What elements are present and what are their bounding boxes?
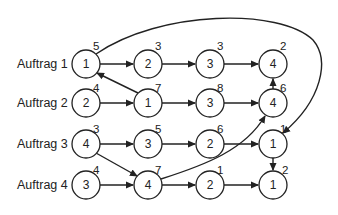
- machine-number: 2: [207, 178, 214, 192]
- node-auftrag-1-op-3: 3 3: [196, 40, 224, 78]
- job-shop-diagram: Auftrag 1 Auftrag 2 Auftrag 3 Auftrag 4 …: [0, 0, 338, 215]
- conjunctive-edges: [100, 64, 258, 185]
- duration: 1: [280, 123, 286, 135]
- duration: 2: [280, 40, 286, 52]
- machine-number: 3: [207, 96, 214, 110]
- machine-number: 4: [270, 57, 277, 71]
- edge-a2-2-to-a1-1: [97, 73, 138, 93]
- node-auftrag-1-op-1: 1 5: [72, 40, 100, 78]
- machine-number: 2: [145, 57, 152, 71]
- node-auftrag-2-op-3: 3 8: [196, 82, 224, 117]
- machine-number: 4: [270, 96, 277, 110]
- duration: 6: [217, 123, 223, 135]
- machine-number: 2: [83, 96, 90, 110]
- node-auftrag-4-op-3: 2 1: [196, 164, 224, 199]
- duration: 8: [217, 82, 223, 94]
- row-label-auftrag-2: Auftrag 2: [17, 96, 68, 110]
- machine-number: 3: [83, 178, 90, 192]
- duration: 2: [282, 164, 288, 176]
- duration: 4: [93, 82, 100, 94]
- duration: 1: [217, 164, 223, 176]
- duration: 5: [93, 40, 99, 52]
- node-auftrag-2-op-2: 1 7: [134, 82, 162, 117]
- node-auftrag-4-op-2: 4 7: [134, 164, 162, 199]
- machine-number: 3: [145, 137, 152, 151]
- duration: 3: [93, 123, 99, 135]
- machine-number: 1: [270, 178, 277, 192]
- node-auftrag-3-op-3: 2 6: [196, 123, 224, 158]
- row-label-auftrag-1: Auftrag 1: [17, 57, 68, 71]
- node-auftrag-1-op-2: 2 3: [134, 40, 162, 78]
- node-auftrag-4-op-4: 1 2: [259, 164, 288, 199]
- duration: 7: [155, 164, 161, 176]
- machine-number: 4: [145, 178, 152, 192]
- duration: 7: [155, 82, 161, 94]
- node-auftrag-3-op-4: 1 1: [259, 123, 287, 158]
- machine-number: 1: [83, 57, 90, 71]
- machine-number: 4: [83, 137, 90, 151]
- node-auftrag-2-op-1: 2 4: [72, 82, 100, 117]
- machine-number: 2: [207, 137, 214, 151]
- row-label-auftrag-3: Auftrag 3: [17, 137, 68, 151]
- node-auftrag-3-op-2: 3 5: [134, 123, 162, 158]
- duration: 4: [93, 164, 100, 176]
- node-auftrag-4-op-1: 3 4: [72, 164, 100, 199]
- duration: 3: [155, 40, 161, 52]
- edge-a3-1-to-a4-2: [96, 153, 137, 176]
- node-auftrag-3-op-1: 4 3: [72, 123, 100, 158]
- duration: 3: [217, 40, 223, 52]
- machine-number: 1: [145, 96, 152, 110]
- machine-number: 3: [207, 57, 214, 71]
- duration: 6: [280, 82, 286, 94]
- machine-number: 1: [270, 137, 277, 151]
- duration: 5: [155, 123, 161, 135]
- row-label-auftrag-4: Auftrag 4: [17, 178, 68, 192]
- node-auftrag-1-op-4: 4 2: [259, 40, 287, 78]
